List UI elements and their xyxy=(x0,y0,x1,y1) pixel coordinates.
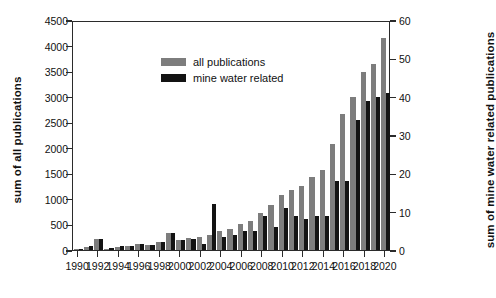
legend-item-mine-water-related: mine water related xyxy=(161,71,284,85)
bar-mine-water-related xyxy=(243,231,247,250)
x-tick-mark xyxy=(220,251,221,257)
y-tick-label-right: 0 xyxy=(399,245,439,257)
bar-mine-water-related xyxy=(79,249,83,250)
bar-mine-water-related xyxy=(233,235,237,250)
x-tick-mark xyxy=(261,251,262,257)
legend-label-all-publications: all publications xyxy=(193,56,265,68)
y-tick-label-right: 60 xyxy=(399,15,439,27)
bar-mine-water-related xyxy=(284,208,288,250)
x-tick-mark xyxy=(77,251,78,257)
y-tick-label-right: 10 xyxy=(399,207,439,219)
bar-mine-water-related xyxy=(130,246,134,250)
x-tick-mark xyxy=(282,251,283,257)
y-tick-label-left: 2500 xyxy=(8,117,68,129)
x-tick-mark xyxy=(343,251,344,257)
y-tick-label-left: 4000 xyxy=(8,41,68,53)
bar-mine-water-related xyxy=(99,239,103,251)
legend-label-mine-water-related: mine water related xyxy=(193,72,284,84)
y-tick-label-right: 30 xyxy=(399,130,439,142)
bar-mine-water-related xyxy=(294,216,298,251)
bar-mine-water-related xyxy=(222,237,226,250)
y-tick-mark-right xyxy=(390,212,396,213)
y-tick-label-left: 1500 xyxy=(8,168,68,180)
x-tick-mark xyxy=(97,251,98,257)
x-tick-label: 2020 xyxy=(365,260,405,272)
y-tick-label-left: 4500 xyxy=(8,15,68,27)
y-tick-mark-right xyxy=(390,97,396,98)
bar-mine-water-related xyxy=(140,244,144,250)
legend-swatch-all-publications xyxy=(161,58,186,66)
bar-mine-water-related xyxy=(150,245,154,250)
bar-mine-water-related xyxy=(212,204,216,250)
bar-mine-water-related xyxy=(89,246,93,250)
bar-mine-water-related xyxy=(202,244,206,250)
bar-mine-water-related xyxy=(345,181,349,250)
legend-item-all-publications: all publications xyxy=(161,55,284,69)
bar-mine-water-related xyxy=(366,101,370,251)
y-tick-mark-right xyxy=(390,250,396,251)
legend-swatch-mine-water-related xyxy=(161,74,186,82)
x-tick-mark xyxy=(179,251,180,257)
y-tick-mark-right xyxy=(390,20,396,21)
bar-mine-water-related xyxy=(181,240,185,250)
y-tick-label-left: 2000 xyxy=(8,143,68,155)
x-tick-mark xyxy=(241,251,242,257)
bar-mine-water-related xyxy=(335,181,339,250)
bar-mine-water-related xyxy=(161,242,165,250)
y-tick-label-right: 50 xyxy=(399,53,439,65)
x-tick-mark xyxy=(138,251,139,257)
y-tick-label-left: 3000 xyxy=(8,92,68,104)
y-tick-label-right: 40 xyxy=(399,92,439,104)
y-tick-label-right: 20 xyxy=(399,168,439,180)
bar-mine-water-related xyxy=(356,120,360,250)
y-axis-right-title: sum of mine water related publications xyxy=(484,25,496,255)
bar-mine-water-related xyxy=(109,248,113,250)
x-tick-mark xyxy=(302,251,303,257)
x-tick-mark xyxy=(200,251,201,257)
bar-mine-water-related xyxy=(263,216,267,251)
plot-area: all publications mine water related xyxy=(72,21,390,251)
bar-mine-water-related xyxy=(325,216,329,251)
y-tick-label-left: 0 xyxy=(8,245,68,257)
bar-mine-water-related xyxy=(304,219,308,250)
y-tick-mark-right xyxy=(390,59,396,60)
y-tick-mark-right xyxy=(390,174,396,175)
x-tick-mark xyxy=(384,251,385,257)
bar-mine-water-related xyxy=(253,231,257,250)
bar-mine-water-related xyxy=(171,233,175,250)
bar-mine-water-related xyxy=(191,239,195,251)
bar-mine-water-related xyxy=(315,216,319,251)
x-tick-mark xyxy=(118,251,119,257)
bar-mine-water-related xyxy=(120,246,124,250)
x-tick-mark xyxy=(323,251,324,257)
bar-mine-water-related xyxy=(274,227,278,250)
y-tick-mark-right xyxy=(390,135,396,136)
bar-mine-water-related xyxy=(386,93,390,250)
chart-legend: all publications mine water related xyxy=(161,55,284,87)
y-tick-label-left: 1000 xyxy=(8,194,68,206)
y-tick-label-left: 500 xyxy=(8,219,68,231)
bar-mine-water-related xyxy=(376,97,380,250)
x-tick-mark xyxy=(364,251,365,257)
y-tick-label-left: 3500 xyxy=(8,66,68,78)
x-tick-mark xyxy=(159,251,160,257)
